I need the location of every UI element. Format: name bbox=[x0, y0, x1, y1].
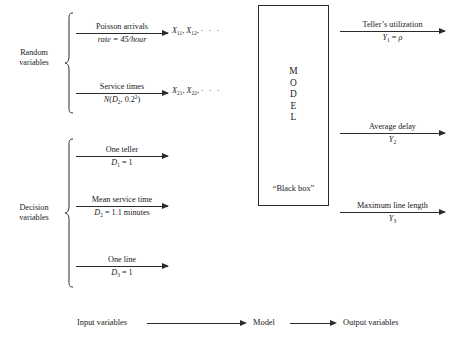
flow-label-bottom: D1 = 1 bbox=[76, 158, 168, 168]
flow-label-bottom: D2 = 1.1 minutes bbox=[76, 208, 168, 218]
brace-decision-variables bbox=[64, 138, 74, 288]
flow-label-bottom: Y3 bbox=[340, 214, 445, 224]
legend-input-label: Input variables bbox=[77, 318, 127, 328]
diagram-canvas: Random variables Poisson arrivals rate =… bbox=[0, 0, 453, 343]
arrowhead-icon bbox=[330, 320, 337, 326]
flow-label-bottom: rate = 45/hour bbox=[76, 35, 168, 45]
legend-output-label: Output variables bbox=[343, 318, 399, 328]
model-black-box: M O D E L “Black box” bbox=[258, 5, 329, 206]
flow-label-bottom: N(D2, 0.22) bbox=[76, 95, 168, 105]
model-letters: M O D E L bbox=[259, 66, 328, 124]
model-letter-o: O bbox=[259, 78, 328, 90]
legend-line-2 bbox=[290, 323, 332, 324]
flow-label-bottom: Y1 = ρ bbox=[340, 33, 445, 43]
flow-label-top: Poisson arrivals bbox=[76, 22, 168, 32]
group-label-random-variables: Random variables bbox=[6, 48, 62, 68]
brace-random-variables bbox=[64, 12, 74, 114]
legend-line-1 bbox=[147, 323, 242, 324]
flow-label-top: Maximum line length bbox=[340, 201, 445, 211]
flow-label-top: Mean service time bbox=[76, 195, 168, 205]
flow-label-bottom: D3 = 1 bbox=[76, 268, 168, 278]
model-letter-e: E bbox=[259, 101, 328, 113]
group-label-decision-variables: Decision variables bbox=[6, 203, 62, 223]
legend-model-label: Model bbox=[253, 318, 275, 328]
output-token-x2: X21, X22, · · · bbox=[172, 86, 221, 96]
model-letter-d: D bbox=[259, 89, 328, 101]
flow-label-top: One line bbox=[76, 255, 168, 265]
output-token-x1: X11, X12, · · · bbox=[172, 26, 221, 36]
model-caption: “Black box” bbox=[259, 184, 328, 194]
flow-label-top: One teller bbox=[76, 145, 168, 155]
model-letter-m: M bbox=[259, 66, 328, 78]
legend-row: Input variables Model Output variables bbox=[0, 318, 453, 340]
flow-label-top: Service times bbox=[76, 82, 168, 92]
model-letter-l: L bbox=[259, 112, 328, 124]
flow-label-bottom: Y2 bbox=[340, 135, 445, 145]
flow-label-top: Average delay bbox=[340, 122, 445, 132]
arrowhead-icon bbox=[240, 320, 247, 326]
flow-label-top: Teller’s utilization bbox=[340, 20, 445, 30]
